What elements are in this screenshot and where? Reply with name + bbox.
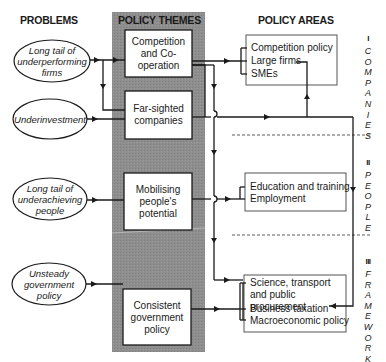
- problem-label-3: Long tail of underachieving people: [16, 182, 84, 216]
- area-item-macroeconomic-policy: Macroeconomic policy: [250, 315, 349, 327]
- header-policy-themes: POLICY THEMES: [118, 14, 201, 26]
- section-number-companies: I: [362, 34, 374, 43]
- area-item-business-taxation: Business taxation: [250, 303, 328, 315]
- area-item-employment: Employment: [250, 193, 306, 205]
- problem-label-2: Underinvestment: [14, 110, 86, 128]
- section-label-companies: COMPANIES: [362, 46, 374, 141]
- area-item-large-firms: Large firms: [251, 55, 301, 67]
- problem-label-1: Long tail of underperforming firms: [16, 44, 88, 78]
- area-item-smes: SMEs: [251, 68, 278, 80]
- theme-label-1: Competition and Co-operation: [126, 32, 191, 75]
- problem-label-4: Unsteady government policy: [17, 267, 81, 301]
- header-problems: PROBLEMS: [20, 14, 78, 26]
- section-number-people: II: [362, 158, 374, 167]
- theme-label-4: Consistent government policy: [125, 292, 189, 343]
- area-item-education-training: Education and training: [250, 181, 350, 193]
- section-number-framework: III: [362, 257, 374, 266]
- theme-label-3: Mobilising people's potential: [126, 176, 190, 228]
- area-item-competition-policy: Competition policy: [251, 42, 333, 54]
- theme-label-2: Far-sighted companies: [126, 93, 191, 137]
- header-policy-areas: POLICY AREAS: [258, 14, 334, 26]
- section-label-framework: FRAMEWORK: [362, 269, 374, 362]
- section-label-people: PEOPLE: [362, 170, 374, 234]
